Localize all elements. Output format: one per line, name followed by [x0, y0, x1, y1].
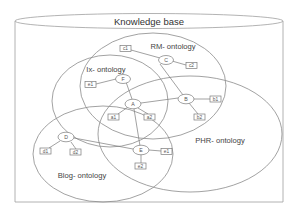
cylinder-body [15, 21, 283, 202]
attr-c2[interactable]: c2 [186, 63, 197, 69]
node-b[interactable]: B [178, 94, 194, 104]
edge-e-e1 [149, 150, 161, 151]
edge-f-e1 [96, 79, 116, 84]
node-d-label: D [64, 134, 68, 140]
edge-c-b [160, 64, 183, 95]
edge-a-e [134, 109, 140, 146]
blog-ontology-label: Blog- ontology [58, 171, 107, 180]
attr-b1-label: b1 [213, 97, 219, 102]
phr-ontology-region [98, 76, 282, 192]
attr-e2-label: e2 [138, 164, 144, 169]
attr-b1[interactable]: b1 [210, 96, 221, 102]
edge-c1-c [131, 50, 160, 58]
node-a-label: A [131, 101, 135, 107]
node-b-label: B [184, 96, 188, 102]
attr-a2[interactable]: a2 [144, 114, 155, 120]
attr-d2[interactable]: d2 [70, 149, 81, 155]
attr-c1-label: c1 [123, 46, 128, 51]
attr-d1-label: d1 [43, 149, 49, 154]
edge-d-d1 [49, 141, 60, 148]
node-f[interactable]: F [116, 75, 131, 84]
diagram-canvas: Knowledge base RM- ontology Ix- ontology… [0, 0, 297, 213]
attr-e2[interactable]: e2 [135, 163, 146, 169]
attr-a2-label: a2 [147, 115, 153, 120]
ix-ontology-label: Ix- ontology [86, 65, 125, 74]
attr-c1[interactable]: c1 [120, 46, 131, 52]
node-e-label: E [139, 147, 143, 153]
edge-a-b [141, 98, 178, 103]
node-f-label: F [121, 76, 124, 82]
attr-b2[interactable]: b2 [194, 114, 205, 120]
node-a[interactable]: A [125, 99, 141, 109]
attr-e1-e[interactable]: e1 [161, 149, 172, 155]
attr-e1-f[interactable]: e1 [85, 82, 96, 88]
knowledge-base-cylinder [15, 14, 283, 203]
edge-b-b2 [189, 103, 198, 114]
attr-b2-label: b2 [197, 115, 203, 120]
node-c-label: C [164, 57, 168, 63]
attr-a1[interactable]: a1 [108, 114, 119, 120]
attr-e1-e-label: e1 [164, 149, 170, 154]
blog-ontology-region [33, 106, 173, 202]
attr-d1[interactable]: d1 [40, 148, 51, 154]
node-c[interactable]: C [159, 56, 174, 65]
knowledge-base-title: Knowledge base [114, 16, 184, 27]
rm-ontology-label: RM- ontology [150, 42, 195, 51]
attr-e1-f-label: e1 [88, 82, 94, 87]
attr-c2-label: c2 [189, 63, 194, 68]
knowledge-base-diagram: Knowledge base RM- ontology Ix- ontology… [0, 0, 297, 213]
attr-d2-label: d2 [73, 150, 79, 155]
phr-ontology-label: PHR- ontology [195, 136, 245, 145]
attr-a1-label: a1 [111, 115, 117, 120]
edge-f-a [126, 82, 132, 99]
edge-c-c2 [172, 61, 186, 65]
node-d[interactable]: D [58, 132, 74, 142]
edge-d-e [74, 138, 133, 149]
node-e[interactable]: E [133, 145, 149, 155]
edge-d-d2 [71, 142, 76, 149]
